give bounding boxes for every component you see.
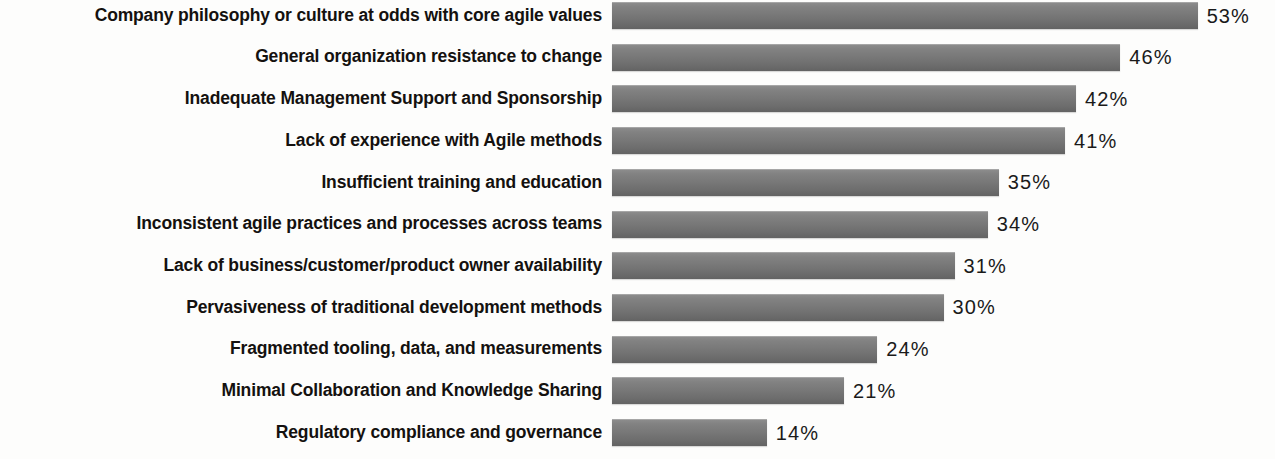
bar-value-label: 21% bbox=[844, 381, 896, 401]
bar-track: 53% bbox=[612, 2, 1275, 29]
bar bbox=[612, 377, 844, 404]
bar-track: 34% bbox=[612, 211, 1275, 238]
category-label: General organization resistance to chang… bbox=[0, 48, 612, 66]
bar-value-label: 24% bbox=[877, 339, 929, 359]
bar-row: Lack of experience with Agile methods41% bbox=[0, 127, 1275, 154]
bar-track: 46% bbox=[612, 44, 1275, 71]
bar-value-label: 34% bbox=[988, 214, 1040, 234]
bar-row: Company philosophy or culture at odds wi… bbox=[0, 2, 1275, 29]
category-label: Lack of business/customer/product owner … bbox=[0, 257, 612, 275]
category-label: Inadequate Management Support and Sponso… bbox=[0, 90, 612, 108]
bar-value-label: 14% bbox=[767, 423, 819, 443]
bar-track: 14% bbox=[612, 419, 1275, 446]
bar bbox=[612, 252, 955, 279]
bar-value-label: 53% bbox=[1198, 6, 1250, 26]
bar bbox=[612, 336, 877, 363]
bar-track: 30% bbox=[612, 294, 1275, 321]
bar-row: Inconsistent agile practices and process… bbox=[0, 211, 1275, 238]
bar-track: 35% bbox=[612, 169, 1275, 196]
category-label: Minimal Collaboration and Knowledge Shar… bbox=[0, 382, 612, 400]
bar-value-label: 41% bbox=[1065, 131, 1117, 151]
bar-value-label: 42% bbox=[1076, 89, 1128, 109]
horizontal-bar-chart: Company philosophy or culture at odds wi… bbox=[0, 0, 1275, 459]
bar-row: Minimal Collaboration and Knowledge Shar… bbox=[0, 377, 1275, 404]
bar-track: 31% bbox=[612, 252, 1275, 279]
bar-row: Regulatory compliance and governance14% bbox=[0, 419, 1275, 446]
category-label: Company philosophy or culture at odds wi… bbox=[0, 7, 612, 25]
bar-row: Lack of business/customer/product owner … bbox=[0, 252, 1275, 279]
bar-value-label: 30% bbox=[944, 297, 996, 317]
bar-row: Inadequate Management Support and Sponso… bbox=[0, 85, 1275, 112]
bar bbox=[612, 44, 1120, 71]
category-label: Fragmented tooling, data, and measuremen… bbox=[0, 340, 612, 358]
bar-track: 42% bbox=[612, 85, 1275, 112]
bar-value-label: 46% bbox=[1120, 47, 1172, 67]
bar bbox=[612, 419, 767, 446]
bar bbox=[612, 294, 944, 321]
bar-row: Insufficient training and education35% bbox=[0, 169, 1275, 196]
bar bbox=[612, 127, 1065, 154]
bar bbox=[612, 2, 1198, 29]
bar bbox=[612, 85, 1076, 112]
category-label: Regulatory compliance and governance bbox=[0, 424, 612, 442]
bar-track: 41% bbox=[612, 127, 1275, 154]
bar bbox=[612, 169, 999, 196]
bar-value-label: 35% bbox=[999, 172, 1051, 192]
bar-track: 24% bbox=[612, 336, 1275, 363]
category-label: Inconsistent agile practices and process… bbox=[0, 215, 612, 233]
bar bbox=[612, 211, 988, 238]
bar-value-label: 31% bbox=[955, 256, 1007, 276]
bar-track: 21% bbox=[612, 377, 1275, 404]
category-label: Pervasiveness of traditional development… bbox=[0, 299, 612, 317]
bar-row: General organization resistance to chang… bbox=[0, 44, 1275, 71]
bar-row: Fragmented tooling, data, and measuremen… bbox=[0, 336, 1275, 363]
category-label: Lack of experience with Agile methods bbox=[0, 132, 612, 150]
category-label: Insufficient training and education bbox=[0, 174, 612, 192]
bar-row: Pervasiveness of traditional development… bbox=[0, 294, 1275, 321]
